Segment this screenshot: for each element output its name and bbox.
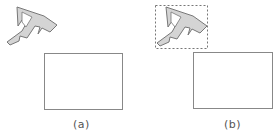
arrow-shape [157,7,207,46]
panel-label: (b) [224,118,241,131]
panel-b-canvas [138,0,277,137]
target-rectangle [194,53,273,109]
panel-b: (b) [138,0,277,137]
panel-a-canvas [0,0,138,137]
panel-a: (a) [0,0,138,137]
target-rectangle [45,54,123,110]
arrow-shape [7,7,57,45]
panel-label: (a) [73,118,90,131]
